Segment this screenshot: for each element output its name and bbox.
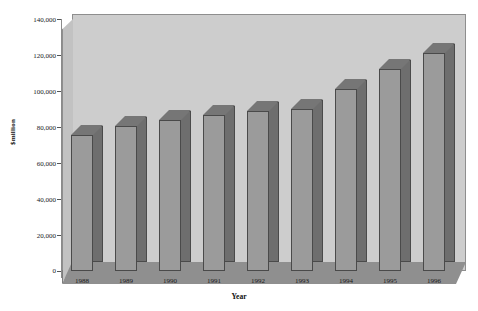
x-tick-label-1992: 1992 (235, 277, 281, 285)
bar-front-face (423, 53, 445, 271)
bar-side-face (313, 100, 323, 262)
y-tick-label-60000: 60,000 (4, 160, 56, 168)
x-tick-label-1991: 1991 (191, 277, 237, 285)
x-tick-label-1994: 1994 (323, 277, 369, 285)
bar-front-face (291, 109, 313, 271)
y-tick-label-100000: 100,000 (4, 88, 56, 96)
bar-front-face (379, 69, 401, 271)
y-tick-label-20000: 20,000 (4, 232, 56, 240)
bar-side-face (269, 102, 279, 262)
bar-side-face (93, 126, 103, 262)
y-tick-label-0: 0 (4, 267, 56, 275)
y-tick-label-120000: 120,000 (4, 52, 56, 60)
bar-side-face (181, 111, 191, 262)
y-axis-line (61, 19, 62, 278)
bar-front-face (247, 111, 269, 271)
bar-side-face (357, 80, 367, 262)
x-tick-label-1990: 1990 (147, 277, 193, 285)
bar-front-face (71, 135, 93, 271)
y-axis: 140,000 120,000 100,000 80,000 60,000 40… (0, 0, 56, 311)
bar-side-face (225, 106, 235, 262)
x-axis-title: Year (0, 292, 478, 301)
bar-front-face (115, 126, 137, 271)
bar-side-face (137, 117, 147, 262)
plot-area (62, 14, 466, 278)
bar-front-face (203, 115, 225, 271)
y-tick-label-140000: 140,000 (4, 16, 56, 24)
y-tick-label-80000: 80,000 (4, 124, 56, 132)
y-tick-label-40000: 40,000 (4, 196, 56, 204)
x-tick-label-1989: 1989 (103, 277, 149, 285)
bar-front-face (159, 120, 181, 271)
bar-side-face (445, 44, 455, 262)
x-tick-label-1996: 1996 (411, 277, 457, 285)
bar-front-face (335, 89, 357, 271)
bar-chart: $million 140,000 120,000 100,000 80,000 … (0, 0, 478, 311)
x-tick-label-1993: 1993 (279, 277, 325, 285)
x-tick-label-1988: 1988 (59, 277, 105, 285)
bar-side-face (401, 60, 411, 262)
x-tick-label-1995: 1995 (367, 277, 413, 285)
